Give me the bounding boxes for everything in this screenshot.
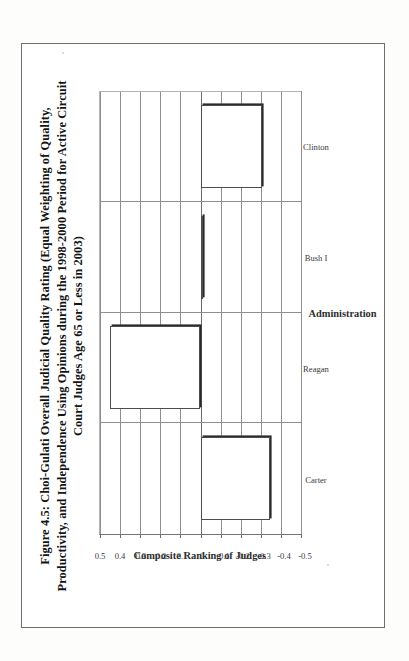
category-label-reagan: Reagan — [289, 364, 343, 374]
figure-title-line-3: Court Judges Age 65 or Less in 2003) — [70, 59, 87, 613]
axis-tick — [180, 534, 181, 538]
axis-tick — [221, 534, 222, 538]
category-label-bush-i: Bush I — [289, 253, 343, 263]
figure-rotated-container: Figure 4.5: Choi-Gulati Overall Judicial… — [33, 51, 373, 621]
bar-chart: Composite Ranking of Judges 0.5 0.4 0.3 … — [93, 51, 368, 621]
category-label-carter: Carter — [289, 475, 343, 485]
axis-tick — [241, 534, 242, 538]
figure-title-line-2: Productivity, and Independence Using Opi… — [54, 59, 71, 613]
bar-bush-i[interactable] — [201, 215, 204, 298]
axis-tick — [140, 534, 141, 538]
figure-title-line-1: Figure 4.5: Choi-Gulati Overall Judicial… — [37, 59, 54, 613]
plot-area — [99, 91, 302, 535]
value-tick-label: -0.5 — [292, 551, 318, 561]
axis-tick — [120, 534, 121, 538]
axis-tick — [160, 534, 161, 538]
category-axis-title: Administration — [278, 307, 408, 318]
bar-carter[interactable] — [201, 436, 270, 519]
axis-tick — [201, 534, 202, 538]
axis-tick — [301, 534, 302, 538]
figure-title: Figure 4.5: Choi-Gulati Overall Judicial… — [37, 59, 87, 613]
category-label-clinton: Clinton — [289, 142, 343, 152]
bar-reagan[interactable] — [110, 326, 200, 409]
axis-tick — [281, 534, 282, 538]
axis-tick — [261, 534, 262, 538]
category-separator — [100, 312, 301, 313]
category-separator — [100, 422, 301, 423]
bar-clinton[interactable] — [201, 105, 262, 188]
category-separator — [100, 201, 301, 202]
axis-tick — [100, 534, 101, 538]
scanned-page-sheet: Figure 4.5: Choi-Gulati Overall Judicial… — [21, 43, 385, 628]
